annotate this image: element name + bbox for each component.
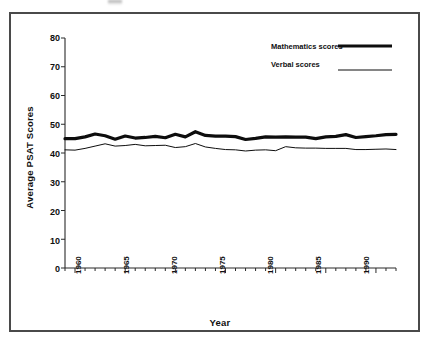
chart-svg <box>0 0 430 345</box>
series-line-verbal <box>65 144 396 151</box>
y-axis-ticks <box>61 38 65 268</box>
chart-plot-area: Average PSAT Scores Year 80 70 60 50 40 … <box>0 0 430 345</box>
x-axis-ticks <box>65 268 396 273</box>
series-line-mathematics <box>65 132 396 140</box>
